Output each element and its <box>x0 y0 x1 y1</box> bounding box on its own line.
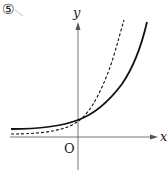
x-axis-label: x <box>160 129 167 144</box>
origin-label: O <box>64 141 75 156</box>
x-axis-arrow-icon <box>150 135 158 140</box>
exponential-graph-diagram: ⑤ x y O <box>0 0 167 170</box>
y-axis-label: y <box>72 5 81 20</box>
dashed-exponential-curve <box>11 20 124 134</box>
figure-number-tick <box>15 10 23 16</box>
solid-exponential-curve <box>11 22 147 129</box>
y-axis-arrow-icon <box>76 22 81 30</box>
figure-number-label: ⑤ <box>2 1 15 17</box>
